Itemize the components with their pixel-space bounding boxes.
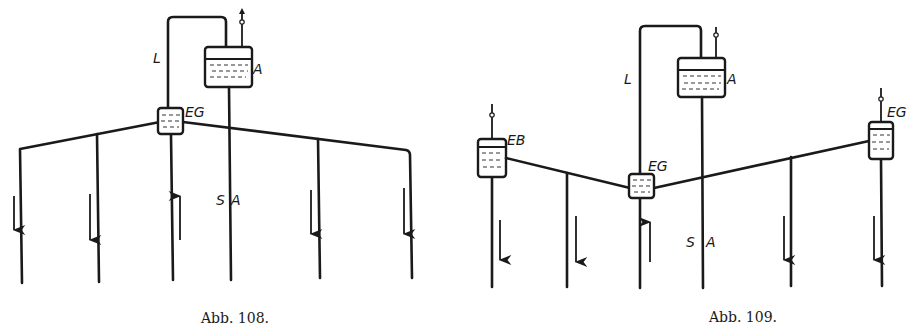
label-l: L (153, 50, 161, 66)
label-s: S (686, 234, 695, 250)
tank-a (678, 58, 725, 97)
vessel-eg-central (629, 174, 654, 198)
label-a-supply: A (705, 234, 716, 250)
label-eg-right: EG (887, 104, 907, 120)
drop-pipe-4 (318, 139, 320, 278)
label-eg-central: EG (648, 158, 668, 174)
vent-valve-icon (490, 113, 494, 117)
figure-109: L A EB EG EG S A Abb. 109. (478, 26, 907, 325)
vent-valve-icon (714, 33, 718, 37)
label-s: S (216, 192, 225, 208)
caption-108: Abb. 108. (200, 310, 269, 326)
caption-109: Abb. 109. (708, 309, 777, 325)
label-a: A (252, 61, 263, 77)
vent-valve-icon (879, 97, 883, 101)
diagram-canvas: L A EG S A Abb. 108. (0, 0, 915, 331)
figure-108: L A EG S A Abb. 108. (14, 8, 412, 326)
vessel-eg-right (869, 122, 893, 159)
drop-pipe-5 (881, 159, 882, 286)
vent-valve-icon (240, 20, 244, 24)
drop-pipe-2 (97, 134, 99, 282)
label-eg: EG (185, 104, 205, 120)
branch-right (654, 141, 869, 188)
supply-pipe-sa (229, 87, 231, 280)
riser-pipe (171, 135, 173, 280)
vessel-eb (478, 139, 506, 177)
supply-pipe-sa (702, 97, 703, 288)
tank-a (205, 47, 252, 87)
label-eb: EB (507, 132, 525, 148)
label-l: L (624, 71, 632, 87)
label-a-supply: A (230, 192, 241, 208)
label-a: A (726, 71, 737, 87)
vessel-eg (158, 108, 183, 134)
vent-tip-icon (239, 8, 245, 14)
